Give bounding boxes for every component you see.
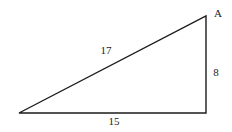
vertical-side-length-label: 8 xyxy=(213,66,219,78)
triangle-figure: A 17 8 15 xyxy=(0,0,232,132)
triangle-outline xyxy=(19,16,206,113)
triangle-diagram: A 17 8 15 xyxy=(0,0,232,132)
vertex-a-label: A xyxy=(214,7,222,19)
hypotenuse-length-label: 17 xyxy=(101,44,113,56)
base-length-label: 15 xyxy=(109,115,121,127)
